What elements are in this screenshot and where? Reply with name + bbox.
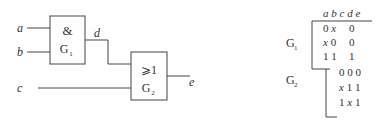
truth-table: a b c d e G 1 0 x0 x 00 1 11 G 2 0 0 0 x… xyxy=(286,7,372,117)
g1-row-3: 1 11 xyxy=(323,50,355,62)
gate-g2-symbol: ⩾1 xyxy=(141,63,157,77)
input-a-label: a xyxy=(17,21,23,35)
g2-row-3: 1 x 1 xyxy=(339,96,360,108)
g1-row-2: x 00 xyxy=(322,36,355,48)
g2-group-subscript: 2 xyxy=(294,81,298,89)
intermediate-d-label: d xyxy=(94,26,101,40)
gate-g1-subscript: 1 xyxy=(69,50,73,58)
output-e-label: e xyxy=(189,75,195,89)
gate-g1-label: G xyxy=(60,42,69,56)
gate-g2-subscript: 2 xyxy=(151,89,155,97)
g2-row-2: x 1 1 xyxy=(338,81,360,93)
circuit: a b c & G 1 d ⩾1 G 2 e xyxy=(17,16,195,100)
table-header: a b c d e xyxy=(323,7,360,19)
g1-row-1: 0 x0 xyxy=(323,22,355,34)
input-c-label: c xyxy=(17,81,23,95)
g1-group-subscript: 1 xyxy=(294,44,298,52)
input-b-label: b xyxy=(17,45,23,59)
gate-g1-symbol: & xyxy=(62,23,72,38)
logic-diagram: a b c & G 1 d ⩾1 G 2 e a b c d e G 1 0 x… xyxy=(0,0,387,124)
gate-g2-label: G xyxy=(142,81,151,95)
g2-row-1: 0 0 0 xyxy=(339,66,362,78)
wire-d xyxy=(85,40,131,64)
